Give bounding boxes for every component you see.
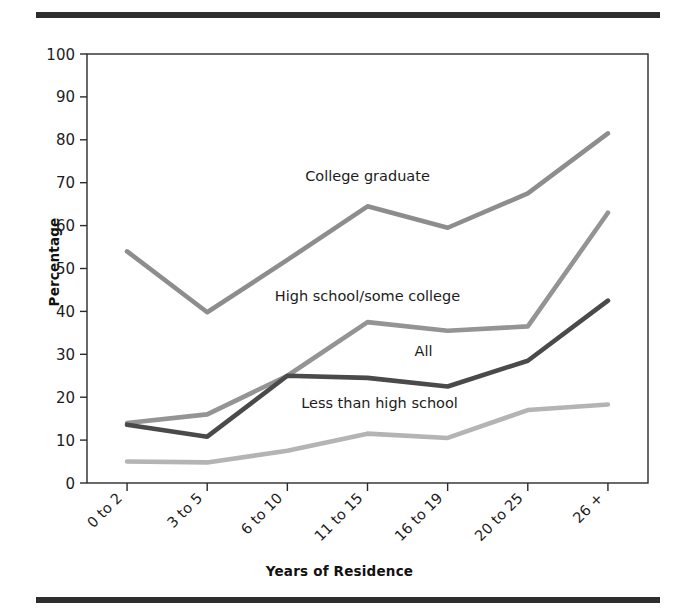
x-tick-label: 26 +	[570, 490, 606, 526]
bottom-divider-rule	[36, 597, 660, 603]
x-tick-label: 3 to 5	[164, 490, 205, 531]
y-tick-label: 90	[56, 88, 75, 106]
series-line-college-graduate	[127, 133, 608, 312]
series-label-college-graduate: College graduate	[305, 168, 430, 184]
series-label-all: All	[415, 343, 433, 359]
x-tick-label: 0 to 2	[84, 490, 125, 531]
series-label-high-school: High school/some college	[275, 288, 460, 304]
y-tick-label: 50	[56, 260, 75, 278]
y-tick-label: 100	[46, 46, 75, 64]
x-tick-label: 11 to 15	[311, 490, 365, 544]
y-tick-label: 40	[56, 303, 75, 321]
chart-page: Percentage Years of Residence 0102030405…	[0, 0, 679, 611]
y-tick-label: 30	[56, 346, 75, 364]
y-tick-label: 0	[65, 475, 75, 493]
series-line-high-school-some-college	[127, 213, 608, 423]
chart-figure: Percentage Years of Residence 0102030405…	[0, 18, 679, 596]
line-chart-plot: 0102030405060708090100 0 to 23 to 56 to …	[0, 18, 679, 596]
series-label-less-than-high-school: Less than high school	[301, 395, 458, 411]
x-axis-ticks: 0 to 23 to 56 to 1011 to 1516 to 1920 to…	[84, 483, 608, 544]
y-axis-ticks: 0102030405060708090100	[46, 46, 87, 493]
y-tick-label: 60	[56, 217, 75, 235]
x-tick-label: 16 to 19	[392, 490, 446, 544]
y-tick-label: 10	[56, 432, 75, 450]
y-tick-label: 80	[56, 131, 75, 149]
x-tick-label: 6 to 10	[238, 490, 286, 538]
x-tick-label: 20 to 25	[472, 490, 526, 544]
y-tick-label: 70	[56, 174, 75, 192]
y-tick-label: 20	[56, 389, 75, 407]
